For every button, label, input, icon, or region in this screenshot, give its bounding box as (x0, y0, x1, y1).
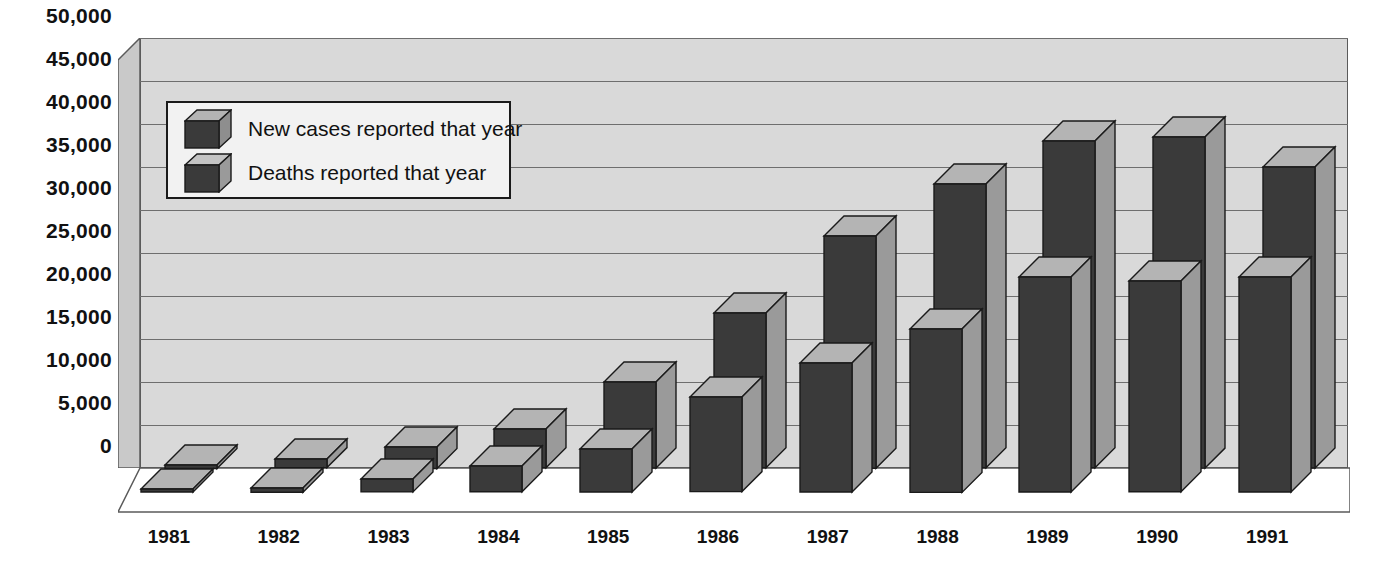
x-axis-tick-label: 1989 (1026, 526, 1068, 548)
cube-3d-icon (184, 153, 232, 193)
chart-canvas: 05,00010,00015,00020,00025,00030,00035,0… (0, 0, 1395, 585)
bar-3d (688, 375, 764, 494)
bar-3d (359, 457, 435, 494)
x-axis-tick-label: 1981 (148, 526, 190, 548)
y-axis-tick-label: 10,000 (2, 348, 112, 372)
bar-3d (468, 444, 544, 494)
x-axis-tick-label: 1985 (587, 526, 629, 548)
legend-label-deaths: Deaths reported that year (248, 161, 486, 185)
y-axis-tick-label: 25,000 (2, 219, 112, 243)
x-axis-tick-label: 1983 (367, 526, 409, 548)
x-axis-tick-label: 1991 (1246, 526, 1288, 548)
y-axis-tick-label: 50,000 (2, 4, 112, 28)
y-axis-tick-label: 0 (2, 434, 112, 458)
cube-3d-icon (184, 109, 232, 149)
bar-3d (578, 427, 654, 494)
x-axis-tick-label: 1987 (807, 526, 849, 548)
legend-label-new-cases: New cases reported that year (248, 117, 522, 141)
y-axis-tick-label: 20,000 (2, 262, 112, 286)
x-axis-tick-label: 1990 (1136, 526, 1178, 548)
y-axis-tick-label: 35,000 (2, 133, 112, 157)
bar-3d (1127, 259, 1203, 494)
legend-item-deaths: Deaths reported that year (184, 151, 486, 195)
y-axis-tick-label: 5,000 (2, 391, 112, 415)
y-axis-tick-label: 45,000 (2, 47, 112, 71)
chart-legend: New cases reported that year Deaths repo… (166, 101, 511, 199)
bar-3d (249, 466, 325, 494)
bar-3d (1237, 255, 1313, 494)
x-axis-tick-label: 1984 (477, 526, 519, 548)
x-axis-tick-label: 1986 (697, 526, 739, 548)
y-axis: 05,00010,00015,00020,00025,00030,00035,0… (0, 0, 112, 585)
bar-3d (798, 341, 874, 494)
bar-3d (908, 307, 984, 494)
y-axis-tick-label: 15,000 (2, 305, 112, 329)
y-axis-tick-label: 30,000 (2, 176, 112, 200)
x-axis-tick-label: 1982 (258, 526, 300, 548)
y-axis-tick-label: 40,000 (2, 90, 112, 114)
legend-item-new-cases: New cases reported that year (184, 107, 522, 151)
bar-3d (163, 443, 239, 470)
x-axis-tick-label: 1988 (916, 526, 958, 548)
bar-3d (139, 467, 215, 494)
bar-3d (1017, 255, 1093, 494)
